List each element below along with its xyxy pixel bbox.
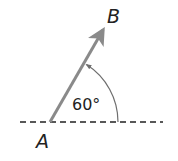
angle-label: 60° xyxy=(72,95,100,114)
point-b-label: B xyxy=(107,5,120,27)
point-a-label: A xyxy=(34,130,49,152)
vector-angle-diagram: B A 60° xyxy=(0,0,178,161)
